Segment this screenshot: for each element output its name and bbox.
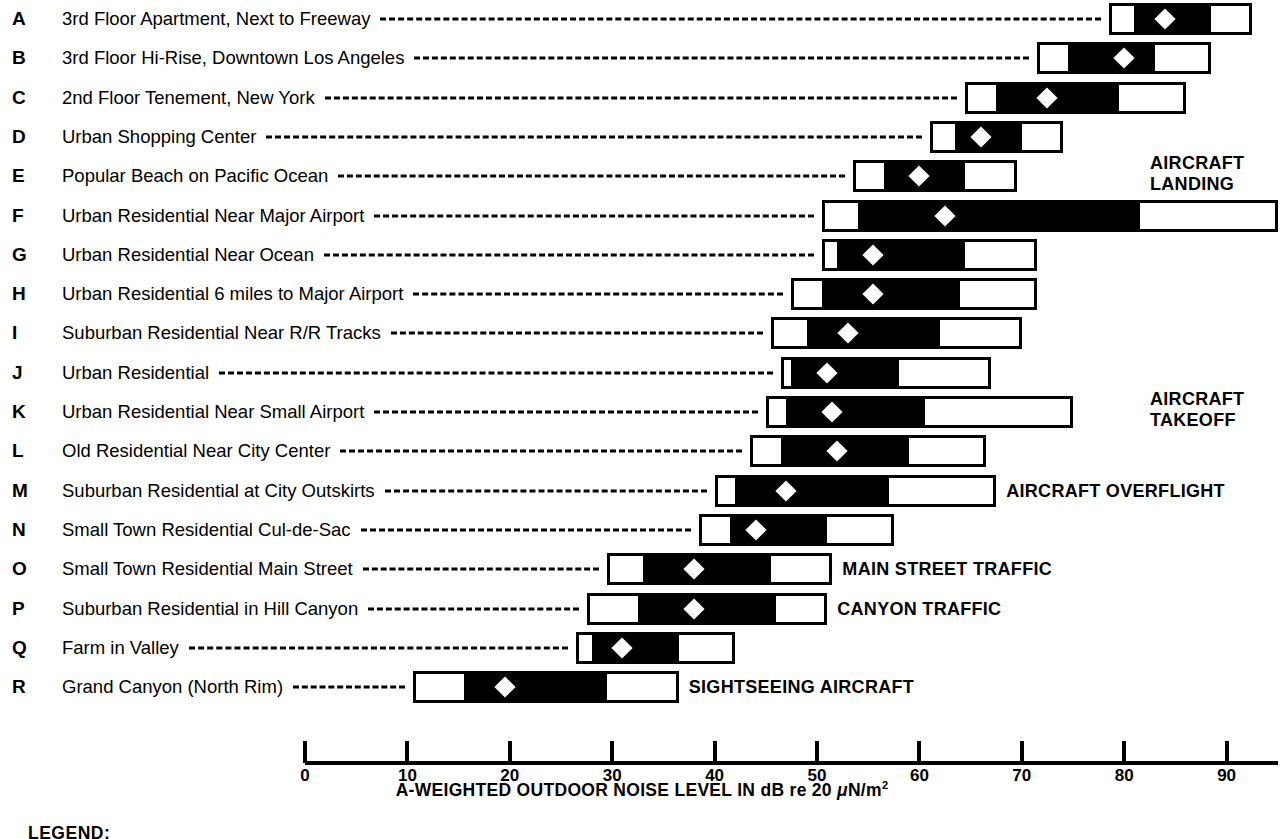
row-label: Urban Residential Near Major Airport bbox=[62, 205, 364, 227]
row-letter: B bbox=[12, 47, 26, 69]
leader-dashes bbox=[374, 214, 814, 217]
bar-annotation: AIRCRAFT TAKEOFF bbox=[1150, 389, 1244, 430]
row-letter: H bbox=[12, 283, 26, 305]
range-bar bbox=[853, 160, 1017, 192]
leader-dashes bbox=[361, 528, 692, 531]
row-label: Urban Residential bbox=[62, 362, 209, 384]
row-label: Urban Residential 6 miles to Major Airpo… bbox=[62, 283, 403, 305]
leader-dashes bbox=[413, 293, 783, 296]
chart-row: RGrand Canyon (North Rim)SIGHTSEEING AIR… bbox=[0, 668, 1284, 706]
row-letter: F bbox=[12, 205, 24, 227]
axis-tick bbox=[713, 741, 717, 763]
bar-annotation: CANYON TRAFFIC bbox=[837, 598, 1001, 619]
typical-range-block bbox=[638, 596, 776, 622]
typical-range-block bbox=[858, 203, 1140, 229]
chart-row: KUrban Residential Near Small AirportAIR… bbox=[0, 393, 1284, 431]
typical-range-block bbox=[822, 281, 960, 307]
axis-line bbox=[305, 761, 1278, 765]
chart-row: JUrban Residential bbox=[0, 354, 1284, 392]
leader-dashes bbox=[338, 175, 844, 178]
range-bar bbox=[607, 553, 832, 585]
range-bar bbox=[822, 239, 1037, 271]
typical-range-block bbox=[643, 556, 771, 582]
axis-tick bbox=[1122, 741, 1126, 763]
leader-dashes bbox=[368, 607, 578, 610]
leader-dashes bbox=[219, 371, 773, 374]
row-letter: M bbox=[12, 480, 28, 502]
row-label: 2nd Floor Tenement, New York bbox=[62, 87, 315, 109]
chart-row: QFarm in Valley bbox=[0, 629, 1284, 667]
range-bar bbox=[715, 475, 997, 507]
chart-row: C2nd Floor Tenement, New York bbox=[0, 79, 1284, 117]
typical-range-block bbox=[735, 478, 889, 504]
row-letter: C bbox=[12, 87, 26, 109]
typical-range-block bbox=[464, 674, 607, 700]
chart-row: DUrban Shopping Center bbox=[0, 118, 1284, 156]
leader-dashes bbox=[363, 568, 599, 571]
range-bar bbox=[822, 200, 1278, 232]
axis-title-text: A-WEIGHTED OUTDOOR NOISE LEVEL IN dB re … bbox=[396, 780, 837, 800]
range-bar bbox=[1037, 42, 1211, 74]
typical-range-block bbox=[791, 360, 899, 386]
typical-range-block bbox=[786, 399, 924, 425]
row-letter: Q bbox=[12, 637, 27, 659]
range-bar bbox=[791, 278, 1037, 310]
row-label: Suburban Residential in Hill Canyon bbox=[62, 598, 358, 620]
leader-dashes bbox=[293, 686, 404, 689]
chart-row: A3rd Floor Apartment, Next to Freeway bbox=[0, 0, 1284, 38]
axis-title: A-WEIGHTED OUTDOOR NOISE LEVEL IN dB re … bbox=[0, 779, 1284, 801]
bar-annotation: AIRCRAFT LANDING bbox=[1150, 153, 1244, 194]
chart-row: OSmall Town Residential Main StreetMAIN … bbox=[0, 550, 1284, 588]
typical-range-block bbox=[807, 320, 940, 346]
typical-range-block bbox=[837, 242, 965, 268]
axis-tick bbox=[610, 741, 614, 763]
axis-tick bbox=[405, 741, 409, 763]
row-label: Suburban Residential Near R/R Tracks bbox=[62, 322, 381, 344]
chart-row: MSuburban Residential at City OutskirtsA… bbox=[0, 472, 1284, 510]
row-label: Farm in Valley bbox=[62, 637, 179, 659]
legend-title: LEGEND: bbox=[28, 823, 110, 839]
leader-dashes bbox=[385, 489, 707, 492]
leader-dashes bbox=[325, 96, 958, 99]
range-bar bbox=[771, 317, 1022, 349]
row-letter: G bbox=[12, 244, 27, 266]
axis-title-exponent: 2 bbox=[882, 779, 888, 791]
row-label: Small Town Residential Main Street bbox=[62, 558, 353, 580]
range-bar bbox=[750, 435, 986, 467]
leader-dashes bbox=[414, 57, 1029, 60]
leader-dashes bbox=[380, 18, 1100, 21]
axis-title-mu: μ bbox=[837, 780, 848, 800]
range-bar bbox=[587, 593, 828, 625]
row-label: Old Residential Near City Center bbox=[62, 440, 330, 462]
axis-title-tail: N/m bbox=[848, 780, 882, 800]
leader-dashes bbox=[324, 253, 814, 256]
range-bar bbox=[1109, 3, 1252, 35]
row-letter: N bbox=[12, 519, 26, 541]
row-letter: D bbox=[12, 126, 26, 148]
chart-row: ISuburban Residential Near R/R Tracks bbox=[0, 314, 1284, 352]
axis-tick bbox=[917, 741, 921, 763]
row-label: Popular Beach on Pacific Ocean bbox=[62, 165, 328, 187]
chart-row: FUrban Residential Near Major Airport bbox=[0, 197, 1284, 235]
range-bar bbox=[930, 121, 1063, 153]
range-bar bbox=[576, 632, 735, 664]
leader-dashes bbox=[266, 135, 921, 138]
row-label: Small Town Residential Cul-de-Sac bbox=[62, 519, 351, 541]
row-letter: E bbox=[12, 165, 25, 187]
axis-tick bbox=[1020, 741, 1024, 763]
chart-row: GUrban Residential Near Ocean bbox=[0, 236, 1284, 274]
typical-range-block bbox=[592, 635, 679, 661]
leader-dashes bbox=[391, 332, 763, 335]
noise-level-range-chart: A3rd Floor Apartment, Next to FreewayB3r… bbox=[0, 0, 1284, 839]
row-label: Urban Shopping Center bbox=[62, 126, 256, 148]
row-label: Urban Residential Near Ocean bbox=[62, 244, 314, 266]
row-letter: L bbox=[12, 440, 24, 462]
chart-row: HUrban Residential 6 miles to Major Airp… bbox=[0, 275, 1284, 313]
row-label: Grand Canyon (North Rim) bbox=[62, 676, 283, 698]
range-bar bbox=[965, 82, 1185, 114]
row-label: Urban Residential Near Small Airport bbox=[62, 401, 364, 423]
leader-dashes bbox=[374, 411, 758, 414]
range-bar bbox=[699, 514, 894, 546]
row-label: 3rd Floor Apartment, Next to Freeway bbox=[62, 8, 370, 30]
row-letter: J bbox=[12, 362, 23, 384]
